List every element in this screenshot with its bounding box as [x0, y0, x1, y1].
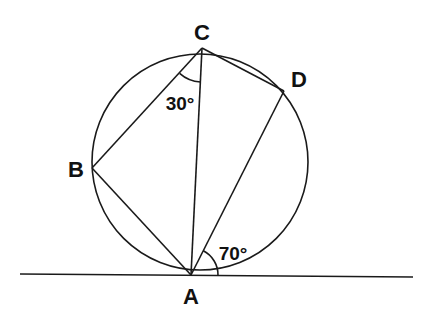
diagram-canvas [0, 0, 442, 320]
point-label-d: D [291, 69, 307, 91]
tangent-line [20, 274, 413, 277]
point-label-c: C [194, 22, 210, 44]
angle-label-30: 30° [166, 94, 195, 113]
point-label-a: A [183, 286, 199, 308]
angle-arc-c [180, 73, 201, 82]
angle-arc-a [203, 251, 218, 276]
point-label-b: B [68, 159, 84, 181]
geometry-diagram: C D B A 30° 70° [0, 0, 442, 320]
angle-label-70: 70° [219, 244, 248, 263]
segment-cd [202, 48, 284, 91]
segment-ab [92, 168, 191, 275]
